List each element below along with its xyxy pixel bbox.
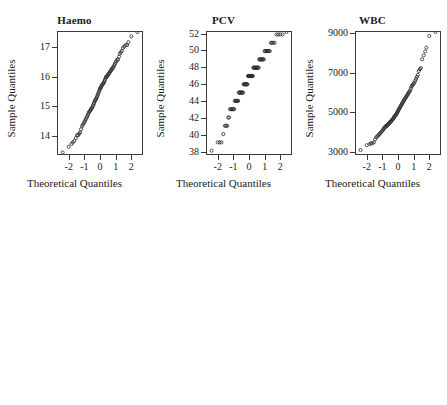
x-tick: [367, 155, 368, 160]
data-points: [356, 32, 440, 154]
x-tick-label: -2: [214, 162, 222, 172]
qq-panel-lympho: Lympho102030405060Sample Quantiles-2-101…: [0, 200, 149, 405]
data-points: [58, 32, 142, 154]
y-tick-label: 15: [40, 101, 50, 111]
qq-panel-neutro: Neutro152025303540Sample Quantiles-2-101…: [149, 200, 298, 405]
y-tick: [52, 106, 57, 107]
y-tick: [52, 136, 57, 137]
y-tick: [201, 67, 206, 68]
y-axis-title: Sample Quantiles: [6, 54, 17, 144]
y-tick: [201, 50, 206, 51]
x-tick-label: -2: [65, 162, 73, 172]
x-tick-label: -1: [80, 162, 88, 172]
x-tick: [233, 155, 234, 160]
y-tick: [350, 152, 355, 153]
y-axis-title: Sample Quantiles: [304, 54, 315, 144]
x-tick-label: -1: [229, 162, 237, 172]
x-tick: [280, 155, 281, 160]
y-tick-label: 44: [189, 96, 199, 106]
y-tick-label: 14: [40, 131, 50, 141]
y-tick-label: 16: [40, 72, 50, 82]
y-tick-label: 17: [40, 42, 50, 52]
y-tick: [52, 77, 57, 78]
panel-title: Haemo: [0, 14, 149, 26]
x-tick: [265, 155, 266, 160]
qq-plot-grid: Haemo14151617Sample Quantiles-2-1012Theo…: [0, 0, 447, 405]
x-axis-title: Theoretical Quantiles: [149, 177, 298, 189]
y-axis-title: Sample Quantiles: [155, 54, 166, 144]
y-tick-label: 52: [189, 29, 199, 39]
x-tick: [84, 155, 85, 160]
y-tick-label: 42: [189, 113, 199, 123]
y-tick: [201, 118, 206, 119]
y-tick-label: 3000: [328, 147, 348, 157]
y-tick: [350, 112, 355, 113]
y-tick-label: 38: [189, 147, 199, 157]
x-tick: [69, 155, 70, 160]
x-tick: [218, 155, 219, 160]
y-tick: [201, 135, 206, 136]
y-tick-label: 46: [189, 79, 199, 89]
y-tick: [201, 101, 206, 102]
x-tick-label: 0: [247, 162, 252, 172]
x-tick-label: 0: [98, 162, 103, 172]
y-tick: [201, 84, 206, 85]
x-tick: [398, 155, 399, 160]
y-tick-label: 48: [189, 62, 199, 72]
x-tick-label: -1: [378, 162, 386, 172]
x-tick-label: 1: [113, 162, 118, 172]
qq-panel-haemo: Haemo14151617Sample Quantiles-2-1012Theo…: [0, 0, 149, 200]
qq-panel-wbc: WBC3000500070009000Sample Quantiles-2-10…: [298, 0, 447, 200]
x-tick-label: 1: [411, 162, 416, 172]
y-tick-label: 5000: [328, 107, 348, 117]
x-axis-title: Theoretical Quantiles: [298, 177, 447, 189]
y-tick: [52, 47, 57, 48]
x-tick: [100, 155, 101, 160]
plot-frame: [57, 31, 143, 155]
y-tick: [201, 152, 206, 153]
x-tick: [116, 155, 117, 160]
qq-panel-pcv: PCV3840424446485052Sample Quantiles-2-10…: [149, 0, 298, 200]
x-tick: [131, 155, 132, 160]
x-tick: [249, 155, 250, 160]
data-points: [207, 32, 291, 154]
x-tick-label: 2: [427, 162, 432, 172]
y-tick-label: 40: [189, 130, 199, 140]
y-tick-label: 7000: [328, 68, 348, 78]
y-tick: [350, 33, 355, 34]
x-tick: [382, 155, 383, 160]
y-tick-label: 50: [189, 45, 199, 55]
panel-title: WBC: [298, 14, 447, 26]
x-tick-label: 2: [278, 162, 283, 172]
y-tick: [201, 34, 206, 35]
x-axis-title: Theoretical Quantiles: [0, 177, 149, 189]
x-tick-label: -2: [363, 162, 371, 172]
plot-frame: [206, 31, 292, 155]
plot-frame: [355, 31, 441, 155]
x-tick-label: 0: [396, 162, 401, 172]
x-tick-label: 1: [262, 162, 267, 172]
y-tick: [350, 73, 355, 74]
x-tick-label: 2: [129, 162, 134, 172]
x-tick: [429, 155, 430, 160]
x-tick: [414, 155, 415, 160]
panel-title: PCV: [149, 14, 298, 26]
qq-panel-lead: Lead1520253035Sample Quantiles-2-1012The…: [298, 200, 447, 405]
y-tick-label: 9000: [328, 28, 348, 38]
